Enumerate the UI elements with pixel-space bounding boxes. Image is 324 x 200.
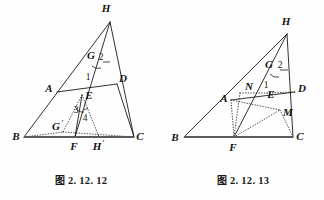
svg-text:': ' (102, 139, 105, 148)
label-D: D (297, 82, 306, 94)
label-E: E (266, 88, 274, 100)
label-A: A (44, 82, 52, 94)
figure-panel-2-12-13: H G 2 1 N A E D M B F C 图 2. 12. 13 (162, 0, 324, 200)
caption-cjk-label: 图 (55, 175, 65, 186)
label-D: D (118, 72, 127, 84)
label-F: F (228, 141, 237, 153)
segment-DC (117, 84, 134, 137)
label-angle-4: 4 (83, 113, 88, 123)
caption-number: 2. 12. 13 (230, 175, 269, 186)
segment-HB (24, 22, 110, 137)
segment-HC (287, 34, 293, 137)
label-B: B (170, 131, 178, 143)
label-N: N (244, 80, 254, 92)
angle-arc-1 (270, 74, 279, 77)
label-C: C (136, 130, 144, 142)
label-C: C (296, 130, 304, 142)
label-angle-1: 1 (86, 72, 91, 82)
segment-HB (184, 34, 287, 137)
label-G-prime: G ' (52, 119, 64, 132)
caption-number: 2. 12. 12 (68, 175, 107, 186)
label-G: G (265, 58, 273, 70)
label-G: G (87, 49, 95, 61)
caption-cjk-label: 图 (217, 175, 227, 186)
segment-AM (231, 100, 280, 110)
label-angle-2: 2 (278, 60, 283, 70)
figure-caption-2-12-13: 图 2. 12. 13 (162, 172, 324, 187)
figure-caption-2-12-12: 图 2. 12. 12 (0, 172, 162, 187)
label-H: H (101, 2, 111, 14)
label-H: H (281, 15, 291, 27)
diagram-2-12-13: H G 2 1 N A E D M B F C (162, 0, 324, 170)
label-M: M (282, 106, 294, 118)
label-angle-3: 3 (74, 105, 79, 115)
segment-AF (231, 100, 234, 137)
label-F: F (69, 140, 78, 152)
label-H-prime: H ' (92, 139, 105, 152)
angle-tick-4 (84, 108, 88, 110)
label-E: E (84, 89, 92, 101)
label-A: A (219, 92, 227, 104)
figure-panel-2-12-12: H G 2 1 A D E 3 4 B G ' F H ' C 图 2. 1 (0, 0, 162, 200)
svg-text:H: H (92, 140, 102, 152)
svg-text:G: G (52, 120, 60, 132)
label-angle-2: 2 (99, 52, 104, 62)
figure-page: H G 2 1 A D E 3 4 B G ' F H ' C 图 2. 1 (0, 0, 324, 200)
svg-text:': ' (61, 119, 64, 128)
diagram-2-12-12: H G 2 1 A D E 3 4 B G ' F H ' C (0, 0, 162, 170)
label-B: B (11, 130, 19, 142)
segment-HF (75, 22, 110, 137)
